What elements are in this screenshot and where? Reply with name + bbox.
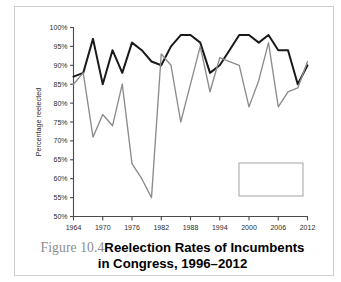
y-axis-tick-label: 60% [53, 175, 67, 182]
y-axis-title-text: Percentage reelected [34, 88, 43, 156]
y-axis-tick-label: 65% [53, 156, 67, 163]
caption-second-line: in Congress, 1996–2012 [20, 256, 325, 272]
y-axis-tick-label: 100% [50, 24, 68, 31]
chart-legend [239, 163, 303, 196]
y-axis-tick-label: 50% [53, 213, 67, 220]
caption-title-line-1: Reelection Rates of Incumbents [104, 240, 304, 255]
y-axis-tick-label: 75% [53, 119, 67, 126]
caption-title-line-2: in Congress, 1996–2012 [98, 256, 248, 271]
y-axis-tick-label: 95% [53, 43, 67, 50]
legend-box [239, 163, 303, 196]
series-line-house [74, 35, 308, 84]
x-axis-tick-label: 1976 [124, 224, 140, 231]
reelection-rates-line-chart: 50%55%60%65%70%75%80%85%90%95%100% 19641… [0, 0, 341, 232]
x-axis-tick-label: 1964 [66, 224, 82, 231]
y-axis-tick-label: 55% [53, 194, 67, 201]
y-axis-tick-label: 85% [53, 81, 67, 88]
x-axis-tick-label: 1970 [95, 224, 111, 231]
y-axis-tick-label: 70% [53, 137, 67, 144]
x-axis-tick-label: 1982 [153, 224, 169, 231]
x-axis-tick-label: 1988 [183, 224, 199, 231]
x-axis-tick-label: 2006 [270, 224, 286, 231]
y-axis: 50%55%60%65%70%75%80%85%90%95%100% [50, 24, 74, 220]
chart-plot-area: 50%55%60%65%70%75%80%85%90%95%100% 19641… [0, 0, 341, 232]
x-axis-tick-label: 2000 [241, 224, 257, 231]
x-axis: 196419701976198219881994200020062012 [66, 217, 316, 231]
x-axis-tick-label: 2012 [300, 224, 316, 231]
x-axis-tick-label: 1994 [212, 224, 228, 231]
y-axis-tick-label: 90% [53, 62, 67, 69]
y-axis-tick-label: 80% [53, 100, 67, 107]
caption-first-line: Figure 10.4Reelection Rates of Incumbent… [20, 240, 325, 256]
caption-figure-number: Figure 10.4 [41, 240, 105, 255]
figure-container: 50%55%60%65%70%75%80%85%90%95%100% 19641… [0, 0, 341, 282]
y-axis-title: Percentage reelected [34, 88, 43, 156]
figure-caption: Figure 10.4Reelection Rates of Incumbent… [20, 240, 325, 272]
